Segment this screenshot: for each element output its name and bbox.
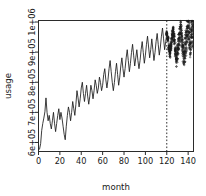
x-tick-label: 120 (159, 156, 175, 166)
y-axis-title: usage (3, 73, 13, 99)
plot-figure: 6e+057e+058e+059e+051e+06 02040608010012… (0, 0, 206, 196)
y-tick-label: 1e+06 (28, 8, 38, 36)
y-tick-label: 6e+05 (28, 129, 38, 157)
x-tick-label: 140 (180, 156, 196, 166)
y-tick-label: 9e+05 (28, 38, 38, 66)
x-tick-label: 40 (76, 156, 86, 166)
x-tick-label: 20 (55, 156, 65, 166)
x-tick-label: 80 (119, 156, 129, 166)
y-axis-ticks: 6e+057e+058e+059e+051e+06 (28, 8, 39, 156)
x-tick-label: 60 (97, 156, 107, 166)
usage-forecast-chart: 6e+057e+058e+059e+051e+06 02040608010012… (0, 0, 206, 196)
x-tick-label: 100 (138, 156, 154, 166)
x-tick-label: 0 (36, 156, 41, 166)
x-axis-title: month (102, 182, 130, 192)
y-tick-label: 8e+05 (28, 68, 38, 96)
y-tick-label: 7e+05 (28, 99, 38, 127)
